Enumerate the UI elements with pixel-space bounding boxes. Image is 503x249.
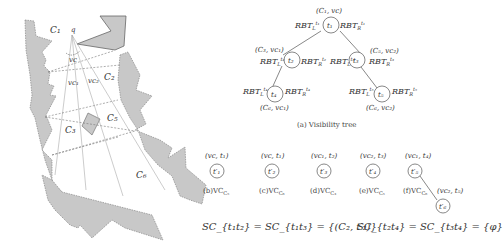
svg-text:RBTRt₁: RBTRt₁	[339, 20, 365, 31]
node-label-t1: t₁	[327, 22, 333, 30]
node-state-t3: (C₅, vc₂)	[370, 47, 399, 55]
label-c5: C₅	[107, 113, 118, 123]
equation-sc-t2: SC_{t₂t₄} = SC_{t₃t₄} = {φ}	[357, 221, 503, 232]
svg-text:RBTRt₄: RBTRt₄	[284, 86, 310, 97]
vc-d-state: (vc₁, t₂)	[311, 152, 337, 160]
svg-text:RBTLt₄: RBTLt₄	[242, 86, 268, 97]
vc-graph-f: (vc₁, t₄) t′₅ (f)VCC₆ (vc₂, t₅) t′₆	[403, 152, 463, 213]
vc-f-node-label: t′₅	[411, 168, 418, 176]
environment-map: C₁ q vc vc₁ vc₂ C₂ C₃ C₅ C₆	[25, 16, 206, 240]
node-state-t2: (C₃, vc₁)	[255, 46, 284, 54]
vc-graph-e: (vc₂, t₃) t′₄ (e)VCC₅	[359, 152, 386, 196]
vc-f-caption: (f)VCC₆	[403, 187, 427, 196]
obstacle-top-right	[77, 16, 126, 50]
vc-f-child-state: (vc₂, t₅)	[437, 187, 463, 195]
label-vc1: vc₁	[68, 79, 79, 87]
node-label-t4: t₄	[271, 91, 277, 99]
vc-c-state: (vc, t₁)	[261, 152, 285, 160]
vc-graph-d: (vc₁, t₂) t′₃ (d)VCC₃	[310, 152, 337, 196]
vc-b-caption: (b)VCC₅	[203, 187, 229, 196]
svg-text:RBTLt₅: RBTLt₅	[348, 86, 374, 97]
vc-c-node-label: t′₂	[268, 168, 275, 176]
vc-d-node-label: t′₃	[320, 168, 327, 176]
vc-b-state: (vc, t₁)	[205, 152, 229, 160]
obstacle-right-wall	[118, 52, 206, 204]
tree-caption: (a) Visibility tree	[297, 121, 357, 129]
vc-graph-b: (vc, t₁) t′₁ (b)VCC₅	[203, 152, 229, 196]
svg-text:RBTRt₅: RBTRt₅	[391, 86, 417, 97]
obstacle-bottom	[42, 175, 163, 240]
vc-f-child-label: t′₆	[439, 203, 446, 211]
vc-f-edge	[420, 176, 437, 200]
vc-e-state: (vc₂, t₃)	[360, 152, 386, 160]
node-state-t5: (C₆, vc₂)	[366, 104, 395, 112]
label-c3: C₃	[65, 125, 76, 135]
vc-c-caption: (c)VCC₆	[259, 187, 285, 196]
vc-d-caption: (d)VCC₃	[310, 187, 336, 196]
node-state-t1: (C₁, vc)	[316, 7, 342, 15]
svg-text:RBTRt₃: RBTRt₃	[368, 56, 394, 67]
label-q: q	[71, 26, 76, 34]
vc-f-state: (vc₁, t₄)	[405, 152, 431, 160]
label-vc: vc	[69, 56, 77, 64]
obstacle-left-wall	[25, 20, 62, 195]
vc-e-node-label: t′₄	[369, 168, 376, 176]
vc-e-caption: (e)VCC₅	[359, 187, 385, 196]
svg-text:RBTLt₁: RBTLt₁	[294, 20, 320, 31]
node-label-t5: t₅	[378, 91, 384, 99]
node-state-t4: (C₆, vc₁)	[260, 104, 289, 112]
vc-graph-c: (vc, t₁) t′₂ (c)VCC₆	[259, 152, 285, 196]
svg-text:RBTLt₂: RBTLt₂	[259, 56, 285, 67]
label-vc2: vc₂	[88, 77, 99, 85]
equation-sc-t1: SC_{t₁t₂} = SC_{t₁t₃} = {(C₂, t′₂)}	[202, 221, 377, 232]
label-c2: C₂	[104, 72, 115, 82]
svg-text:RBTRt₂: RBTRt₂	[300, 56, 326, 67]
vc-graphs: (vc, t₁) t′₁ (b)VCC₅ (vc, t₁) t′₂ (c)VCC…	[203, 152, 463, 213]
vc-b-node-label: t′₁	[213, 168, 220, 176]
label-c1: C₁	[50, 25, 61, 35]
label-c6: C₆	[136, 170, 147, 180]
tree-labels: t₁ t₂ t₃ t₄ t₅ (C₁, vc) (C₃, vc₁) (C₅, v…	[242, 7, 417, 129]
node-label-t2: t₂	[288, 57, 294, 65]
